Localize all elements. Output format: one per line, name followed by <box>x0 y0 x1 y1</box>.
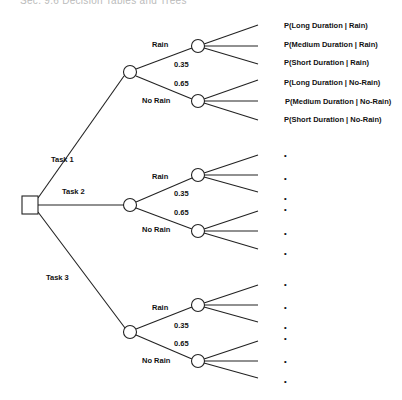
outcome-dot: • <box>284 151 287 160</box>
task-3-norain-prob: 0.65 <box>174 339 189 348</box>
outcome-dot: • <box>284 357 287 366</box>
decision-node <box>22 196 38 214</box>
task-1-norain-label: No Rain <box>142 96 171 105</box>
task-2-norain-prob: 0.65 <box>174 208 189 217</box>
task-1-norain-node <box>192 95 205 108</box>
outcome-dot: • <box>284 334 287 343</box>
task-3-rain-node <box>192 299 205 312</box>
outcome-dot: • <box>284 303 287 312</box>
outcome-dot: • <box>284 229 287 238</box>
task-3-rain-label: Rain <box>152 303 169 312</box>
task-1-rain-prob: 0.35 <box>174 60 189 69</box>
edge-task-3 <box>38 212 125 328</box>
task-2-label: Task 2 <box>62 187 85 196</box>
edge-task-1 <box>38 76 124 198</box>
task-2-rain-node <box>192 169 205 182</box>
outcome-label: P(Long Duration | No-Rain) <box>284 78 381 87</box>
task-3-chance-node <box>124 326 137 339</box>
outcome-dot: • <box>284 323 287 332</box>
outcome-label: P(Medium Duration | No-Rain) <box>285 97 392 106</box>
task-2-norain-label: No Rain <box>142 225 171 234</box>
task-1-chance-node <box>124 66 137 79</box>
task-1-norain-prob: 0.65 <box>174 79 189 88</box>
task-2-rain-prob: 0.35 <box>174 189 189 198</box>
outcome-label: P(Short Duration | Rain) <box>284 58 370 67</box>
task-1-subtree: Rain 0.35 0.65 No Rain P(Long Duration |… <box>124 21 392 124</box>
task-1-rain-label: Rain <box>152 40 169 49</box>
outcome-label: P(Long Duration | Rain) <box>284 21 368 30</box>
decision-tree: Task 1 Task 2 Task 3 Rain 0.35 0.65 No R… <box>0 0 402 400</box>
outcome-dot: • <box>284 205 287 214</box>
task-2-norain-node <box>192 225 205 238</box>
outcome-dot: • <box>284 194 287 203</box>
task-3-norain-node <box>192 355 205 368</box>
task-2-chance-node <box>124 199 137 212</box>
outcome-dot: • <box>284 377 287 386</box>
task-1-label: Task 1 <box>51 155 74 164</box>
task-2-rain-label: Rain <box>152 172 169 181</box>
outcome-label: P(Short Duration | No-Rain) <box>284 115 382 124</box>
outcome-dot: • <box>284 249 287 258</box>
task-3-rain-prob: 0.35 <box>174 321 189 330</box>
task-3-subtree: Rain 0.35 0.65 No Rain • • • • • • <box>124 280 288 386</box>
outcome-dot: • <box>284 280 287 289</box>
task-3-norain-label: No Rain <box>142 356 171 365</box>
task-1-rain-node <box>192 40 205 53</box>
outcome-dot: • <box>284 174 287 183</box>
outcome-label: P(Medium Duration | Rain) <box>284 40 378 49</box>
task-3-label: Task 3 <box>46 273 69 282</box>
task-2-subtree: Rain 0.35 0.65 No Rain • • • • • • <box>124 151 288 258</box>
